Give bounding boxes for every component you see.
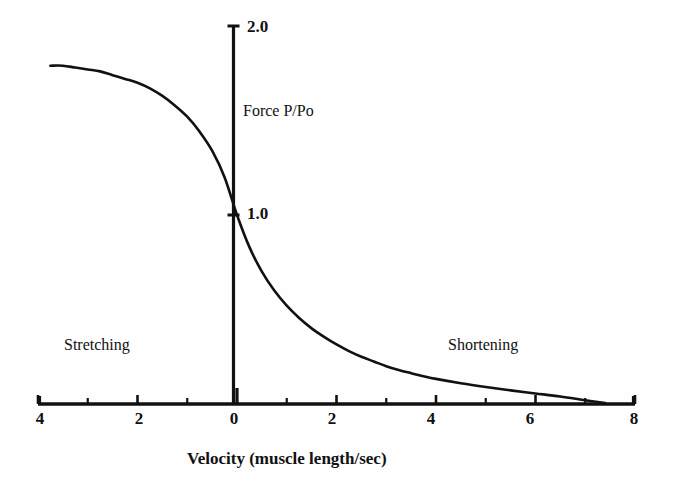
region-label-stretching: Stretching	[64, 337, 130, 353]
y-tick-label-1: 1.0	[247, 205, 268, 222]
x-tick-label-neg4: 4	[30, 410, 50, 427]
y-axis-caption: Force P/Po	[243, 103, 314, 119]
y-tick-label-2: 2.0	[247, 18, 268, 35]
force-velocity-chart: 4 2 0 2 4 6 8 1.0 2.0 Force P/Po Stretch…	[0, 0, 674, 485]
region-label-shortening: Shortening	[448, 337, 518, 353]
x-axis-ticks	[38, 388, 635, 404]
x-axis-title: Velocity (muscle length/sec)	[187, 450, 387, 467]
x-tick-label-4: 4	[421, 410, 441, 427]
x-tick-label-neg2: 2	[129, 410, 149, 427]
x-tick-label-0: 0	[224, 410, 244, 427]
x-tick-label-8: 8	[624, 410, 644, 427]
x-tick-label-6: 6	[520, 410, 540, 427]
x-tick-label-2: 2	[322, 410, 342, 427]
force-velocity-curve	[50, 66, 605, 404]
